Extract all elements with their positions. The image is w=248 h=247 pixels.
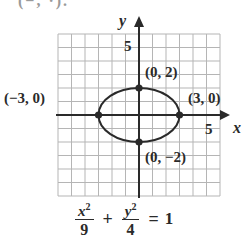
plus-sign: + xyxy=(103,209,113,230)
vertex-point xyxy=(176,111,183,118)
x-axis-label: x xyxy=(232,119,241,136)
fraction-x: x2 9 xyxy=(75,199,94,239)
x-tick-5: 5 xyxy=(205,121,213,137)
y-axis xyxy=(134,16,144,198)
denominator-9: 9 xyxy=(80,220,88,239)
vertex-point xyxy=(95,111,102,118)
y-tick-5: 5 xyxy=(124,38,132,54)
ellipse-equation: x2 9 + y2 4 = 1 xyxy=(72,199,173,239)
y-axis-label: y xyxy=(117,12,127,30)
label-left-vertex: (−3, 0) xyxy=(4,90,45,107)
label-right-vertex: (3, 0) xyxy=(188,90,221,107)
vertex-point xyxy=(135,138,142,145)
fraction-y: y2 4 xyxy=(122,199,140,239)
exponent: 2 xyxy=(131,201,136,212)
label-bottom-vertex: (0, −2) xyxy=(145,149,186,166)
rhs-value: 1 xyxy=(165,209,174,229)
denominator-4: 4 xyxy=(127,220,135,239)
x-axis xyxy=(56,110,230,120)
x-axis-arrow-icon xyxy=(220,110,230,120)
label-top-vertex: (0, 2) xyxy=(145,64,178,81)
equals-sign: = xyxy=(148,209,158,230)
numerator-x: x xyxy=(78,203,86,219)
y-axis-arrow-icon xyxy=(134,16,144,27)
vertex-point xyxy=(135,84,142,91)
exponent: 2 xyxy=(86,201,91,212)
